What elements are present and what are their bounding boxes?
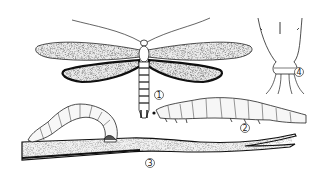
moth-antenna-right xyxy=(147,18,210,42)
larva xyxy=(152,98,306,124)
label-3: 3 xyxy=(146,159,155,169)
moth-antenna-left xyxy=(72,20,141,42)
svg-text:3: 3 xyxy=(147,159,152,168)
looper-caterpillar xyxy=(28,104,117,142)
moth-thorax xyxy=(139,46,149,62)
moth-abdomen xyxy=(139,62,149,118)
abdomen-tip-detail xyxy=(258,18,304,94)
moth-head xyxy=(141,40,148,46)
svg-text:2: 2 xyxy=(242,124,247,133)
svg-text:1: 1 xyxy=(156,91,161,100)
svg-text:4: 4 xyxy=(296,68,301,77)
label-4: 4 xyxy=(295,68,304,78)
label-1: 1 xyxy=(155,91,164,101)
label-2: 2 xyxy=(241,124,250,134)
moth-life-stages-illustration: 1 2 3 4 xyxy=(0,0,329,182)
